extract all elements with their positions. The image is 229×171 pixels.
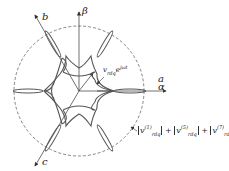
petal-upper-left [44,30,62,58]
axis-label-b: b [42,12,48,22]
axis-label-alpha: α [158,82,165,92]
axis-label-beta: β [82,6,88,16]
petal-lower-left [44,124,62,152]
b-axis [35,15,79,91]
vector-label: vrdqejωt [103,65,128,76]
circle-radius-label: v(1)rdq + v(5)rdq + v(7)rdq [138,124,229,136]
petal-lower-right [96,124,114,152]
petal-upper-right [96,30,114,58]
axis-label-c: c [42,157,48,167]
space-vector-diagram [0,0,229,171]
petal-left [13,89,43,93]
